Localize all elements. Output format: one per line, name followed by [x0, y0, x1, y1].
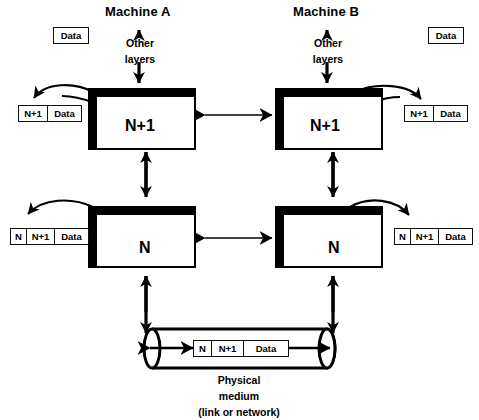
layer-box-n-machine-a: N — [88, 206, 196, 268]
packet-lower-right-segment-n: N — [395, 229, 410, 244]
data-box-top-right-segment-data: Data — [429, 28, 463, 43]
other-layers-label-a-line1: Other — [120, 38, 160, 49]
packet-in-medium-segment-n: N — [194, 341, 211, 356]
layer-box-n-plus-1-machine-a: N+1 — [88, 88, 196, 150]
packet-lower-right-segment-n-plus-1: N+1 — [410, 229, 438, 244]
packet-upper-left-segment-header: N+1 — [19, 106, 47, 121]
layer-box-n-machine-a-label: N — [139, 239, 151, 257]
physical-medium-caption-line3: (link or network) — [179, 407, 299, 418]
packet-upper-left: N+1 Data — [18, 105, 82, 122]
machine-a-title: Machine A — [105, 5, 170, 18]
layer-box-n-plus-1-machine-b: N+1 — [275, 88, 383, 150]
data-box-top-right: Data — [428, 27, 464, 44]
other-layers-label-b-line2: layers — [308, 54, 348, 65]
packet-upper-right-segment-data: Data — [433, 106, 467, 121]
physical-medium-caption-line2: medium — [189, 391, 289, 402]
packet-lower-right-segment-data: Data — [438, 229, 472, 244]
diagram-vector-layer — [0, 0, 479, 420]
packet-lower-right: N N+1 Data — [394, 228, 473, 245]
packet-lower-left: N N+1 Data — [10, 228, 89, 245]
layer-box-n-plus-1-machine-b-label: N+1 — [310, 117, 340, 135]
layer-box-face: N — [95, 213, 196, 268]
layer-box-face: N+1 — [282, 95, 383, 150]
packet-lower-left-segment-data: Data — [54, 229, 88, 244]
layer-box-face: N+1 — [95, 95, 196, 150]
machine-b-title: Machine B — [293, 5, 359, 18]
packet-lower-left-segment-n: N — [11, 229, 26, 244]
layer-box-n-machine-b: N — [275, 206, 383, 268]
layer-box-face: N — [282, 213, 383, 268]
packet-upper-right-segment-header: N+1 — [405, 106, 433, 121]
physical-medium-caption-line1: Physical — [189, 375, 289, 386]
layer-box-n-plus-1-machine-a-label: N+1 — [125, 117, 155, 135]
data-box-top-left: Data — [53, 27, 89, 44]
packet-upper-left-segment-data: Data — [47, 106, 81, 121]
other-layers-label-a-line2: layers — [120, 54, 160, 65]
layer-box-n-machine-b-label: N — [328, 239, 340, 257]
packet-lower-left-segment-n-plus-1: N+1 — [26, 229, 54, 244]
packet-upper-right: N+1 Data — [404, 105, 468, 122]
packet-in-medium: N N+1 Data — [193, 340, 289, 357]
data-box-top-left-segment-data: Data — [54, 28, 88, 43]
packet-in-medium-segment-data: Data — [243, 341, 288, 356]
packet-in-medium-segment-n-plus-1: N+1 — [211, 341, 243, 356]
protocol-layering-diagram: Machine A Machine B Other layers Other l… — [0, 0, 479, 420]
other-layers-label-b-line1: Other — [308, 38, 348, 49]
